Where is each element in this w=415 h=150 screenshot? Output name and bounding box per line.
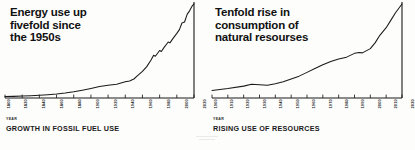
chart-title-fossil-fuel-use: Energy use up fivefold since the 1950s — [10, 6, 87, 44]
charts-container: Energy use up fivefold since the 1950s 1… — [0, 0, 415, 150]
x-axis-tick-label: 1980 — [345, 99, 350, 109]
x-axis-tick-label: 1920 — [114, 99, 119, 109]
chart-caption-resource-use: RISING USE OF RESOURCES — [213, 125, 320, 133]
x-axis-tick-label: 1950 — [296, 99, 301, 109]
x-axis-tick-label: 1880 — [78, 99, 83, 109]
x-axis-tick-label: 1930 — [263, 99, 268, 109]
x-axis-tick-label: 1920 — [246, 99, 251, 109]
x-axis-tick-labels-resource-use: 1900191019201930194019501960197019801990… — [212, 99, 409, 116]
chart-panel-fossil-fuel-use: Energy use up fivefold since the 1950s 1… — [0, 0, 207, 150]
x-axis-tick-label: 1900 — [214, 99, 219, 109]
x-axis-tick-label: 1980 — [167, 99, 172, 109]
x-axis-tick-label: 1960 — [149, 99, 154, 109]
x-axis-tick-label: 1960 — [312, 99, 317, 109]
x-axis-tick-label: 1910 — [230, 99, 235, 109]
x-axis-tick-label: 1820 — [24, 99, 29, 109]
x-axis-tick-label: 1840 — [42, 99, 47, 109]
x-axis-tick-label: 1940 — [279, 99, 284, 109]
chart-panel-resource-use: Tenfold rise in consumption of natural r… — [207, 0, 415, 150]
x-axis-name-resource-use: YEAR — [213, 117, 224, 121]
x-axis-tick-label: 2020 — [411, 99, 415, 109]
x-axis-tick-label: 1990 — [361, 99, 366, 109]
chart-title-resource-use: Tenfold rise in consumption of natural r… — [215, 6, 308, 44]
x-axis-tick-labels-fossil-fuel-use: 1800182018401860188019001920194019601980… — [5, 99, 201, 116]
x-axis-tick-label: 2010 — [394, 99, 399, 109]
x-axis-tick-label: 1860 — [60, 99, 65, 109]
x-axis-tick-label: 1900 — [96, 99, 101, 109]
x-axis-tick-label: 2000 — [378, 99, 383, 109]
chart-caption-fossil-fuel-use: GROWTH IN FOSSIL FUEL USE — [6, 125, 119, 133]
x-axis-tick-label: 1970 — [329, 99, 334, 109]
x-axis-tick-label: 1800 — [7, 99, 12, 109]
x-axis-tick-label: 2000 — [185, 99, 190, 109]
scan-artifact — [196, 136, 222, 144]
x-axis-tick-label: 1940 — [131, 99, 136, 109]
x-axis-name-fossil-fuel-use: YEAR — [6, 117, 17, 121]
